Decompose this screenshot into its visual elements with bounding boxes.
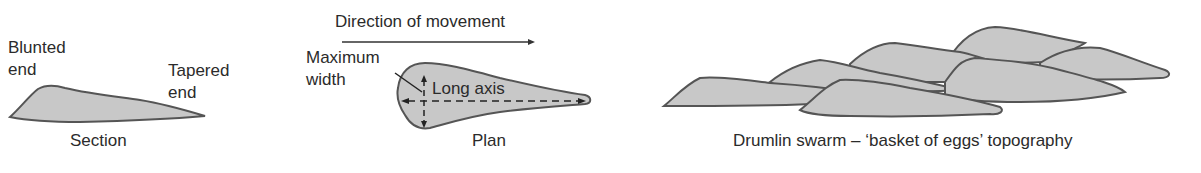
- maximum-width-label-line2: width: [306, 70, 346, 90]
- tapered-end-label-line2: end: [168, 83, 196, 103]
- drumlin-swarm-caption: Drumlin swarm – ‘basket of eggs’ topogra…: [733, 131, 1073, 151]
- blunted-end-label-line1: Blunted: [8, 38, 66, 58]
- tapered-end-label-line1: Tapered: [168, 61, 229, 81]
- direction-of-movement-label: Direction of movement: [335, 12, 505, 32]
- long-axis-label: Long axis: [432, 79, 505, 99]
- blunted-end-label-line2: end: [8, 60, 36, 80]
- plan-caption: Plan: [472, 131, 506, 151]
- section-caption: Section: [70, 131, 127, 151]
- maximum-width-label-line1: Maximum: [306, 48, 380, 68]
